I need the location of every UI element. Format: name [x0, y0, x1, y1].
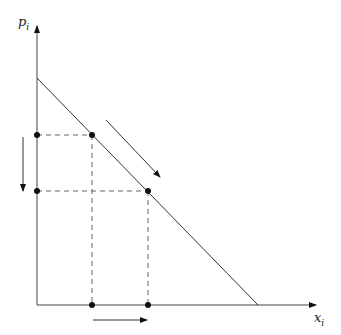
- point-initial: [89, 132, 95, 138]
- quantity-final: [145, 302, 151, 308]
- points: [34, 132, 151, 308]
- diagram-canvas: [0, 0, 341, 335]
- quantity-initial: [89, 302, 95, 308]
- guide-lines: [37, 135, 148, 305]
- arrow-along-curve-icon: [106, 120, 160, 177]
- point-final: [145, 188, 151, 194]
- y-axis-label: pi: [18, 14, 29, 32]
- x-axis-label: xi: [314, 310, 324, 328]
- price-initial: [34, 132, 40, 138]
- price-final: [34, 188, 40, 194]
